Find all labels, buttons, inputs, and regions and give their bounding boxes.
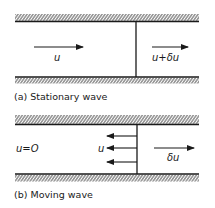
- velocity-label-left: u: [54, 52, 60, 63]
- velocity-label-right: u+δu: [152, 52, 179, 63]
- wave-diagram: u u+δu (a) Stationary wave u=O u δu (b) …: [0, 0, 215, 208]
- bottom-wall-hatch: [15, 175, 199, 182]
- caption-a: (a) Stationary wave: [14, 91, 108, 102]
- still-fluid-label: u=O: [16, 143, 39, 154]
- panel-a-stationary-wave: u u+δu (a) Stationary wave: [14, 14, 199, 102]
- top-wall-hatch: [15, 14, 199, 21]
- wave-velocity-label: u: [98, 143, 104, 154]
- top-wall-hatch: [15, 115, 199, 124]
- induced-velocity-label: δu: [167, 152, 179, 163]
- bottom-wall-hatch: [15, 78, 199, 84]
- panel-b-moving-wave: u=O u δu (b) Moving wave: [14, 115, 199, 200]
- caption-b: (b) Moving wave: [14, 189, 93, 200]
